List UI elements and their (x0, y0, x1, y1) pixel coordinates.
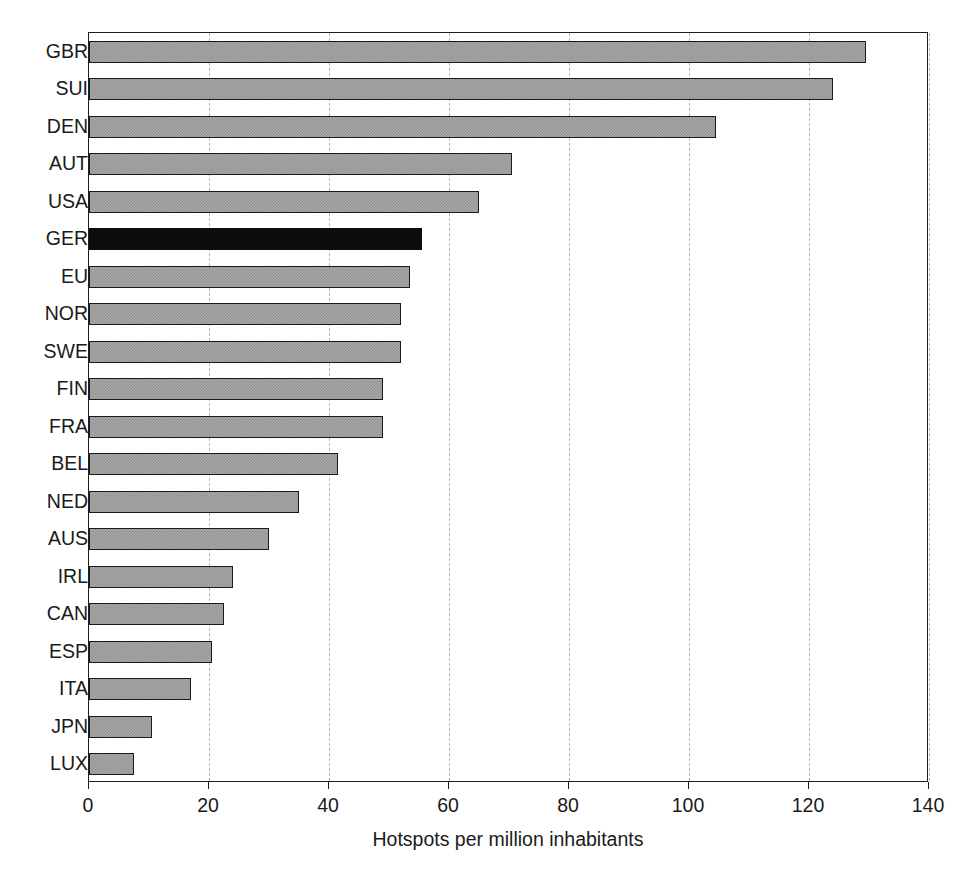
x-tick-label-20: 20 (163, 793, 253, 817)
bar-fra (89, 416, 383, 438)
x-axis-title: Hotspots per million inhabitants (88, 827, 928, 851)
y-tick-label-den: DEN (8, 116, 88, 136)
bar-irl (89, 566, 233, 588)
bar-jpn (89, 716, 152, 738)
x-tick-label-60: 60 (403, 793, 493, 817)
bar-lux (89, 753, 134, 775)
bar-row (89, 183, 927, 221)
plot-area (88, 32, 928, 782)
x-tick-mark-0 (88, 782, 89, 789)
bar-ita (89, 678, 191, 700)
bar-row (89, 258, 927, 296)
bar-row (89, 296, 927, 334)
y-tick-label-swe: SWE (8, 341, 88, 361)
bar-gbr (89, 41, 866, 63)
x-tick-mark-60 (448, 782, 449, 789)
bar-eu (89, 266, 410, 288)
y-tick-label-fra: FRA (8, 416, 88, 436)
bar-row (89, 521, 927, 559)
x-tick-label-100: 100 (643, 793, 733, 817)
bar-row (89, 71, 927, 109)
y-tick-label-sui: SUI (8, 78, 88, 98)
y-tick-label-ned: NED (8, 491, 88, 511)
x-tick-mark-80 (568, 782, 569, 789)
x-tick-mark-20 (208, 782, 209, 789)
bar-row (89, 146, 927, 184)
bar-sui (89, 78, 833, 100)
y-tick-label-irl: IRL (8, 566, 88, 586)
y-tick-label-nor: NOR (8, 303, 88, 323)
bar-row (89, 633, 927, 671)
bar-ger (89, 228, 422, 250)
bar-aut (89, 153, 512, 175)
bar-row (89, 558, 927, 596)
bar-nor (89, 303, 401, 325)
y-tick-label-can: CAN (8, 603, 88, 623)
bar-bel (89, 453, 338, 475)
bar-row (89, 671, 927, 709)
bar-usa (89, 191, 479, 213)
y-tick-label-ger: GER (8, 228, 88, 248)
x-tick-label-140: 140 (883, 793, 972, 817)
bar-esp (89, 641, 212, 663)
x-tick-label-40: 40 (283, 793, 373, 817)
bar-aus (89, 528, 269, 550)
y-tick-label-gbr: GBR (8, 41, 88, 61)
x-tick-mark-140 (928, 782, 929, 789)
y-tick-label-ita: ITA (8, 678, 88, 698)
bar-row (89, 446, 927, 484)
y-tick-label-aut: AUT (8, 153, 88, 173)
x-tick-mark-120 (808, 782, 809, 789)
bar-can (89, 603, 224, 625)
bar-row (89, 596, 927, 634)
y-tick-label-usa: USA (8, 191, 88, 211)
bar-row (89, 483, 927, 521)
gridline-140 (929, 33, 930, 781)
bar-fin (89, 378, 383, 400)
bar-swe (89, 341, 401, 363)
bar-row (89, 108, 927, 146)
y-tick-label-fin: FIN (8, 378, 88, 398)
bar-row (89, 408, 927, 446)
bar-den (89, 116, 716, 138)
bar-row (89, 708, 927, 746)
bar-row (89, 33, 927, 71)
bar-row (89, 333, 927, 371)
y-tick-label-jpn: JPN (8, 716, 88, 736)
y-tick-label-lux: LUX (8, 753, 88, 773)
x-tick-label-80: 80 (523, 793, 613, 817)
y-tick-label-bel: BEL (8, 453, 88, 473)
bar-ned (89, 491, 299, 513)
bar-row (89, 371, 927, 409)
horizontal-bar-chart: Hotspots per million inhabitants GBRSUID… (0, 0, 972, 870)
x-tick-mark-40 (328, 782, 329, 789)
y-tick-label-eu: EU (8, 266, 88, 286)
bar-row (89, 746, 927, 784)
bar-row (89, 221, 927, 259)
x-tick-label-0: 0 (43, 793, 133, 817)
x-tick-label-120: 120 (763, 793, 853, 817)
y-tick-label-esp: ESP (8, 641, 88, 661)
y-tick-label-aus: AUS (8, 528, 88, 548)
x-tick-mark-100 (688, 782, 689, 789)
